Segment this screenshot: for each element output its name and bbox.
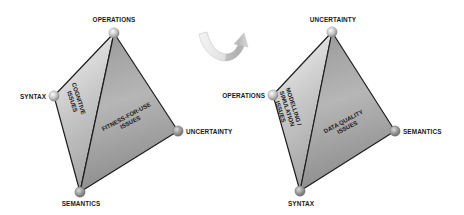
rotate-arrow-icon — [199, 32, 248, 61]
vertex-sphere-semantics — [75, 187, 85, 197]
vertex-label-uncertainty: UNCERTAINTY — [186, 128, 233, 135]
vertex-label-uncertainty: UNCERTAINTY — [310, 16, 357, 23]
vertex-sphere-uncertainty — [327, 27, 337, 37]
vertex-sphere-operations — [109, 28, 119, 38]
vertex-label-operations: OPERATIONS — [222, 92, 265, 99]
vertex-sphere-syntax — [49, 91, 59, 101]
left-tetrahedron: COGNITIVE ISSUES FITNESS-FOR-USE ISSUES … — [20, 16, 233, 207]
vertex-sphere-uncertainty — [173, 126, 183, 136]
vertex-label-semantics: SEMANTICS — [403, 128, 442, 135]
vertex-label-syntax: SYNTAX — [20, 93, 47, 100]
vertex-sphere-semantics — [390, 126, 400, 136]
vertex-sphere-operations — [268, 90, 278, 100]
vertex-sphere-syntax — [295, 186, 305, 196]
tetrahedron-diagram: COGNITIVE ISSUES FITNESS-FOR-USE ISSUES … — [0, 0, 464, 215]
vertex-label-semantics: SEMANTICS — [62, 200, 101, 207]
right-tetrahedron: MODELLING / SIMULATION ISSUES DATA QUALI… — [222, 16, 442, 207]
vertex-label-syntax: SYNTAX — [288, 200, 315, 207]
vertex-label-operations: OPERATIONS — [93, 16, 136, 23]
